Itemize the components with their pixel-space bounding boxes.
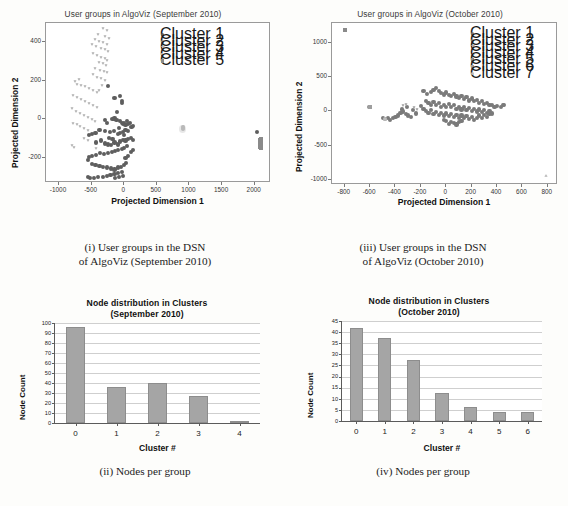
data-point — [72, 146, 76, 149]
axis-tick-mark — [420, 184, 421, 187]
axis-tick-mark — [339, 410, 342, 411]
axis-tick-mark — [394, 184, 395, 187]
axis-tick-mark — [356, 421, 357, 424]
data-point — [94, 153, 98, 157]
axis-tick-mark — [339, 421, 342, 422]
caption-ii-line1: (ii) Nodes per group — [30, 464, 260, 478]
axis-tick-mark — [471, 184, 472, 187]
axis-tick-label: 100 — [31, 320, 51, 326]
bar — [148, 383, 167, 423]
data-point — [459, 119, 463, 123]
bar — [350, 328, 363, 421]
grid-line — [342, 377, 542, 378]
axis-tick-mark — [123, 182, 124, 185]
axis-tick-mark — [58, 182, 59, 185]
grid-line — [55, 353, 260, 354]
axis-tick-label: 0 — [31, 420, 51, 426]
axis-tick-mark — [328, 179, 331, 180]
data-point — [96, 175, 100, 179]
data-point — [103, 129, 107, 133]
data-point — [86, 158, 90, 162]
grid-line — [55, 333, 260, 334]
data-point — [118, 94, 122, 98]
axis-tick-label: 800 — [531, 188, 563, 195]
caption-i: (i) User groups in the DSN of AlgoViz (S… — [30, 240, 260, 268]
axis-tick-mark — [240, 423, 241, 426]
data-point — [93, 131, 97, 135]
axis-tick-mark — [42, 118, 45, 119]
data-point — [87, 133, 91, 137]
caption-i-line2: of AlgoViz (September 2010) — [30, 254, 260, 268]
axis-tick-mark — [52, 373, 55, 374]
axis-tick-mark — [158, 423, 159, 426]
data-point — [105, 29, 109, 32]
axis-tick-mark — [344, 184, 345, 187]
caption-iv: (iv) Nodes per group — [308, 464, 538, 478]
axis-tick-label: 1 — [370, 427, 400, 436]
axis-tick-label: 0 — [107, 186, 139, 193]
caption-ii: (ii) Nodes per group — [30, 464, 260, 478]
grid-line — [55, 363, 260, 364]
figure-page: User groups in AlgoViz (September 2010) … — [0, 0, 568, 506]
data-point — [103, 79, 107, 82]
data-point — [117, 126, 121, 130]
axis-tick-label: -200 — [17, 153, 41, 160]
axis-tick-label: 30 — [31, 390, 51, 396]
axis-tick-mark — [42, 80, 45, 81]
data-point — [93, 120, 97, 123]
data-point — [126, 154, 130, 158]
axis-tick-label: -500 — [303, 141, 327, 148]
data-point — [105, 71, 109, 74]
data-point — [91, 52, 95, 55]
data-point — [86, 139, 90, 142]
data-point — [115, 110, 119, 114]
axis-tick-mark — [52, 363, 55, 364]
data-point — [90, 43, 94, 46]
data-point — [131, 124, 135, 128]
data-point — [92, 176, 96, 180]
grid-line — [342, 354, 542, 355]
data-point — [120, 101, 124, 105]
axis-tick-label: 70 — [31, 350, 51, 356]
axis-tick-label: 1500 — [205, 186, 237, 193]
axis-tick-mark — [521, 184, 522, 187]
data-point — [103, 35, 107, 38]
axis-tick-label: 0 — [17, 114, 41, 121]
panel-scatter-september: User groups in AlgoViz (September 2010) … — [0, 0, 284, 228]
data-point — [442, 118, 446, 122]
axis-tick-label: 2 — [398, 427, 428, 436]
axis-tick-label: 0 — [341, 427, 371, 436]
data-point — [104, 64, 108, 67]
axis-tick-label: 15 — [318, 384, 338, 390]
axis-tick-mark — [499, 421, 500, 424]
axis-tick-mark — [442, 421, 443, 424]
axis-tick-mark — [496, 184, 497, 187]
data-point — [100, 84, 104, 87]
data-point — [120, 147, 124, 151]
axis-tick-label: 1 — [102, 429, 132, 438]
data-point — [409, 115, 413, 119]
data-point — [400, 107, 404, 111]
bar — [493, 412, 506, 421]
axis-tick-mark — [339, 332, 342, 333]
axis-tick-mark — [52, 323, 55, 324]
data-point — [255, 130, 259, 134]
grid-line — [342, 388, 542, 389]
data-point — [108, 130, 112, 134]
data-point — [343, 28, 347, 32]
data-point — [97, 89, 101, 92]
axis-tick-mark — [328, 76, 331, 77]
data-point — [101, 175, 105, 179]
axis-tick-label: 40 — [318, 329, 338, 335]
data-point — [105, 59, 109, 62]
axis-tick-mark — [369, 184, 370, 187]
data-point — [77, 78, 81, 81]
axis-tick-label: 2000 — [238, 186, 270, 193]
data-point — [112, 129, 116, 133]
grid-line — [342, 343, 542, 344]
axis-tick-label: 4 — [456, 427, 486, 436]
axis-tick-mark — [199, 423, 200, 426]
axis-tick-label: 40 — [31, 380, 51, 386]
data-point — [94, 140, 98, 144]
scatter-september-xlabel: Projected Dimension 1 — [45, 196, 270, 206]
